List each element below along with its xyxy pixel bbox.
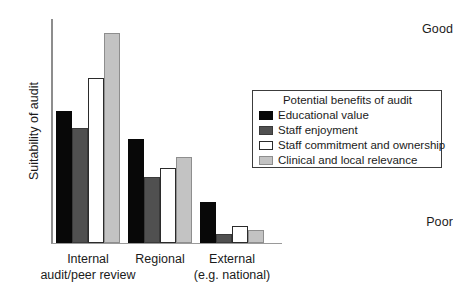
bar-regional-educational-value	[128, 139, 144, 243]
legend-swatch-clinical-relevance	[259, 156, 273, 165]
bar-external-staff-commitment	[232, 226, 248, 243]
legend-label-staff-enjoyment: Staff enjoyment	[278, 124, 358, 137]
x-axis-group-label-external: External (e.g. national)	[176, 252, 288, 283]
bar-external-clinical-relevance	[248, 230, 264, 243]
x-axis-line	[51, 243, 282, 244]
legend-item-clinical-relevance: Clinical and local relevance	[259, 153, 436, 168]
y-axis-line	[51, 19, 53, 244]
legend-swatch-staff-commitment	[259, 141, 273, 150]
legend-label-staff-commitment: Staff commitment and ownership	[278, 139, 445, 152]
x-label-line1: Internal	[67, 252, 109, 266]
x-label-line1: External	[209, 252, 255, 266]
x-label-line2: audit/peer review	[28, 268, 148, 284]
bar-chart: Good Poor Suitability of audit Internal …	[0, 0, 453, 301]
bar-regional-staff-enjoyment	[144, 177, 160, 243]
y-axis-tick-poor: Poor	[407, 215, 453, 229]
bar-regional-clinical-relevance	[176, 157, 192, 243]
bar-regional-staff-commitment	[160, 168, 176, 243]
legend-title: Potential benefits of audit	[259, 94, 436, 106]
bar-internal-staff-enjoyment	[72, 128, 88, 243]
bar-external-staff-enjoyment	[216, 234, 232, 243]
x-label-line2: (e.g. national)	[176, 268, 288, 284]
bar-external-educational-value	[200, 202, 216, 243]
bar-internal-clinical-relevance	[104, 33, 120, 243]
legend-swatch-staff-enjoyment	[259, 126, 273, 135]
legend-item-staff-commitment: Staff commitment and ownership	[259, 138, 436, 153]
y-axis-tick-good: Good	[407, 22, 453, 36]
legend-label-clinical-relevance: Clinical and local relevance	[278, 154, 417, 167]
legend: Potential benefits of audit Educational …	[252, 90, 442, 168]
legend-item-educational-value: Educational value	[259, 108, 436, 123]
legend-swatch-educational-value	[259, 111, 273, 120]
legend-item-staff-enjoyment: Staff enjoyment	[259, 123, 436, 138]
legend-label-educational-value: Educational value	[278, 109, 369, 122]
y-axis-title: Suitability of audit	[27, 51, 41, 211]
bar-internal-staff-commitment	[88, 78, 104, 243]
bar-internal-educational-value	[56, 111, 72, 243]
